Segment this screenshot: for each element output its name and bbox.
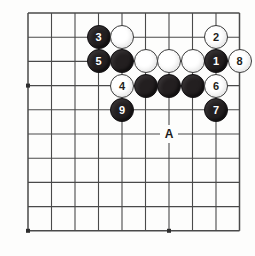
stone-label: 9 — [111, 99, 133, 121]
star-point — [167, 229, 171, 233]
stone-white-4: 4 — [110, 74, 134, 98]
stone-white — [181, 49, 205, 73]
stone-black — [134, 74, 158, 98]
stone-label: 5 — [88, 50, 110, 72]
stone-black-7: 7 — [204, 98, 228, 122]
stone-label: 4 — [111, 75, 133, 97]
stone-black — [181, 74, 205, 98]
stone-white-6: 6 — [204, 74, 228, 98]
stone-label: 7 — [205, 99, 227, 121]
go-board-diagram: A325184697 — [0, 0, 255, 256]
board-marker-a: A — [160, 125, 178, 143]
stone-black-9: 9 — [110, 98, 134, 122]
stone-white — [134, 49, 158, 73]
stone-white-8: 8 — [228, 49, 252, 73]
stone-white — [110, 25, 134, 49]
stone-label: 8 — [229, 50, 251, 72]
stone-black-3: 3 — [87, 25, 111, 49]
star-point — [26, 229, 30, 233]
stone-label: 1 — [205, 50, 227, 72]
stone-label: 3 — [88, 26, 110, 48]
stone-label: 6 — [205, 75, 227, 97]
stone-black-5: 5 — [87, 49, 111, 73]
stone-white-2: 2 — [204, 25, 228, 49]
stone-label: 2 — [205, 26, 227, 48]
star-point — [26, 84, 30, 88]
stone-black-1: 1 — [204, 49, 228, 73]
stone-black — [157, 74, 181, 98]
